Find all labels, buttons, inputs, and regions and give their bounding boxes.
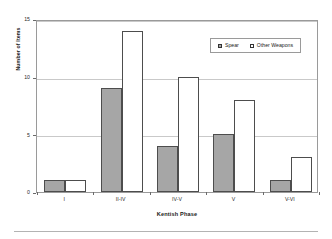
x-tick-mark-4 [263, 192, 264, 195]
x-tick-mark-3 [206, 192, 207, 195]
x-axis-title: Kentish Phase [36, 211, 318, 217]
bar-spear-iv-v[interactable] [157, 146, 178, 192]
y-tick-label-10: 10 [12, 75, 30, 80]
y-tick-mark-0 [33, 193, 36, 194]
x-tick-label-v-vi: V-VI [262, 197, 318, 202]
x-tick-label-iv-v: IV-V [149, 197, 205, 202]
x-tick-label-v: V [205, 197, 261, 202]
bar-other-weapons-v[interactable] [234, 100, 255, 192]
y-tick-label-15: 15 [12, 17, 30, 22]
legend-entry-spear[interactable]: Spear [218, 43, 239, 48]
bar-other-weapons-iv-v[interactable] [178, 77, 199, 192]
legend-entry-other-weapons[interactable]: Other Weapons [250, 43, 293, 48]
y-tick-label-5: 5 [12, 133, 30, 138]
legend-label-other-weapons: Other Weapons [257, 43, 293, 48]
gridline-5 [37, 136, 317, 137]
bar-spear-i[interactable] [44, 180, 65, 192]
bar-spear-v[interactable] [213, 134, 234, 192]
chart-legend[interactable]: Spear Other Weapons [210, 38, 301, 53]
bar-other-weapons-i[interactable] [65, 180, 86, 192]
gridline-15 [37, 21, 317, 22]
bar-other-weapons-ii-iv[interactable] [122, 31, 143, 192]
y-tick-label-0: 0 [12, 190, 30, 195]
bar-other-weapons-v-vi[interactable] [291, 157, 312, 192]
x-tick-label-i: I [36, 197, 92, 202]
figure: Number of Items 051015 Spear Other Weapo… [0, 0, 332, 239]
y-axis-title: Number of Items [15, 0, 21, 109]
bar-spear-ii-iv[interactable] [101, 88, 122, 192]
legend-swatch-other-weapons-icon [250, 44, 254, 48]
legend-swatch-spear-icon [218, 44, 222, 48]
x-tick-mark-2 [150, 192, 151, 195]
bottom-divider [14, 231, 318, 232]
x-tick-mark-end [319, 192, 320, 195]
bar-spear-v-vi[interactable] [270, 180, 291, 192]
plot-area: Spear Other Weapons [36, 20, 318, 193]
x-tick-label-ii-iv: II-IV [92, 197, 148, 202]
x-tick-mark-0 [37, 192, 38, 195]
legend-label-spear: Spear [225, 43, 239, 48]
x-tick-mark-1 [93, 192, 94, 195]
gridline-10 [37, 79, 317, 80]
